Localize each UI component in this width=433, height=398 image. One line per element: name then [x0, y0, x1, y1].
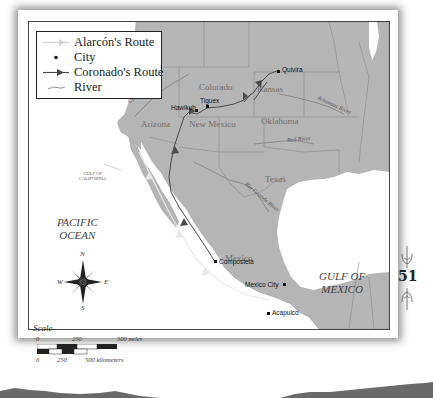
compass-north: N — [80, 250, 85, 258]
label-gulf-of-mexico: GULF OF MEXICO — [319, 270, 365, 296]
label-arizona: Arizona — [141, 119, 170, 129]
scale-km-0: 0 — [36, 356, 39, 363]
map-legend: Alarcón's Route City Coronado's Route Ri… — [36, 31, 162, 99]
torn-paper-edge — [0, 378, 433, 398]
label-pacific-ocean: PACIFIC OCEAN — [57, 216, 98, 242]
label-kansas: Kansas — [257, 84, 283, 94]
legend-item-river: River — [37, 80, 161, 95]
dark-arrow-line-icon — [43, 67, 69, 78]
label-new-mexico: New Mexico — [189, 119, 236, 129]
label-acapulco: Acapulco — [272, 309, 299, 316]
scale-title: Scale — [33, 323, 53, 333]
label-tiguex: Tiguex — [200, 97, 219, 104]
scale-miles-250: 250 — [72, 335, 82, 342]
city-dot-icon — [43, 52, 69, 63]
label-colorado: Colorado — [199, 82, 233, 92]
compass-west: W — [57, 278, 63, 286]
compass-rose: N S W E — [58, 252, 108, 312]
scale-km-500: 500 kilometers — [85, 356, 123, 363]
scale-miles-0: 0 — [36, 335, 39, 342]
compass-star-icon — [58, 252, 108, 312]
page-number: 51 — [398, 268, 417, 284]
label-mexico-city: Mexico City — [245, 281, 279, 288]
ornament-top-icon — [400, 246, 414, 268]
label-compostela-visible: Compostela — [219, 258, 254, 265]
scale-bar — [37, 344, 121, 356]
legend-item-coronado: Coronado's Route — [37, 65, 161, 80]
label-gulf-of-california: GULF OF CALIFORNIA — [79, 171, 106, 181]
light-arrow-line-icon — [43, 37, 69, 48]
scale-km-250: 250 — [57, 356, 67, 363]
scale-miles-500: 500 miles — [117, 335, 142, 342]
compass-south: S — [81, 304, 85, 312]
label-quivira: Quivira — [282, 66, 303, 73]
legend-item-alarcon: Alarcón's Route — [37, 35, 161, 50]
river-line-icon — [43, 82, 69, 93]
label-texas: Texas — [265, 174, 286, 184]
legend-item-city: City — [37, 50, 161, 65]
compass-east: E — [104, 278, 108, 286]
ornament-bottom-icon — [400, 288, 414, 310]
label-hawikuh: Hawikuh — [171, 104, 196, 111]
label-oklahoma: Oklahoma — [261, 116, 299, 126]
